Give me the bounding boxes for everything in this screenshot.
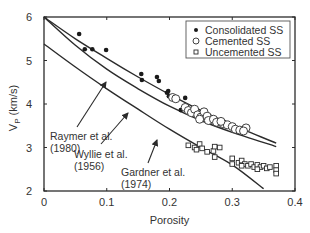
uncemented-point	[205, 150, 210, 155]
x-tick-label: 0.3	[225, 196, 240, 208]
chart: 00.10.20.30.423456 Raymer et al.(1980)Wy…	[0, 0, 310, 233]
uncemented-point	[230, 156, 235, 161]
legend-open-square-icon	[194, 50, 198, 54]
arrow-gardner	[148, 140, 157, 163]
consolidated-point	[157, 79, 162, 84]
consolidated-point	[155, 75, 160, 80]
uncemented-point	[212, 144, 217, 149]
label-year-wyllie: (1956)	[74, 160, 104, 172]
label-raymer: Raymer et al.	[50, 130, 112, 142]
consolidated-point	[165, 90, 170, 95]
x-tick-label: 0	[41, 196, 47, 208]
x-tick-label: 0.2	[162, 196, 177, 208]
cemented-point	[217, 117, 225, 125]
y-tick-label: 3	[26, 142, 32, 154]
y-axis-label: VP (km/s)	[7, 85, 22, 131]
uncemented-point	[268, 165, 273, 170]
uncemented-point	[239, 163, 244, 168]
uncemented-point	[255, 167, 260, 172]
uncemented-point	[217, 145, 222, 150]
consolidated-point	[82, 47, 87, 52]
consolidated-point	[183, 96, 188, 101]
curve-annotations: Raymer et al.(1980)Wyllie et al.(1956)Ga…	[50, 82, 185, 190]
consolidated-point	[77, 32, 82, 37]
consolidated-point	[104, 48, 109, 53]
consolidated-point	[140, 78, 145, 83]
uncemented-point	[186, 143, 191, 148]
cemented-point	[196, 115, 204, 123]
y-tick-label: 2	[26, 185, 32, 197]
cemented-point	[240, 127, 248, 135]
y-tick-label: 5	[26, 55, 32, 67]
y-tick-label: 4	[26, 98, 32, 110]
legend-label: Uncemented SS	[205, 46, 281, 58]
x-tick-label: 0.4	[287, 196, 302, 208]
uncemented-point	[194, 147, 199, 152]
arrow-wyllie	[101, 113, 128, 144]
uncemented-point	[230, 162, 235, 167]
uncemented-point	[212, 155, 217, 160]
legend-filled-circle-icon	[194, 28, 198, 32]
x-tick-label: 0.1	[99, 196, 114, 208]
label-gardner: Gardner et al.	[121, 166, 185, 178]
uncemented-point	[274, 171, 279, 176]
consolidated-point	[90, 47, 95, 52]
y-tick-label: 6	[26, 11, 32, 23]
arrow-raymer	[77, 82, 106, 127]
x-axis-label: Porosity	[150, 214, 190, 226]
legend: Consolidated SSCemented SSUncemented SS	[186, 21, 290, 58]
label-wyllie: Wyllie et al.	[74, 148, 128, 160]
label-year-gardner: (1974)	[121, 178, 151, 190]
y-axis-label-unit: (km/s)	[7, 85, 19, 119]
consolidated-point	[139, 72, 144, 77]
cemented-point	[172, 95, 180, 103]
legend-open-circle-icon	[193, 38, 199, 44]
uncemented-point	[200, 146, 205, 151]
